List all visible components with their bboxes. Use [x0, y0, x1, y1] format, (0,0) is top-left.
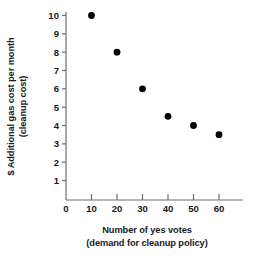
- data-point: [88, 12, 95, 19]
- y-tick-label: 3: [54, 138, 59, 149]
- data-point: [139, 85, 146, 92]
- axis-lines: [66, 12, 243, 200]
- x-axis-title-line1: Number of yes votes: [38, 224, 256, 237]
- data-point: [165, 113, 172, 120]
- data-point: [216, 131, 223, 138]
- y-tick-label: 9: [54, 28, 59, 39]
- x-tick-label: 40: [163, 203, 174, 214]
- y-tick-label: 4: [54, 120, 60, 131]
- data-point: [190, 122, 197, 129]
- x-tick-label: 30: [137, 203, 148, 214]
- y-tick-label: 10: [48, 10, 59, 21]
- x-axis-tick-labels: 0102030405060: [63, 203, 224, 214]
- x-axis-title: Number of yes votes (demand for cleanup …: [38, 224, 256, 249]
- x-axis-title-line2: (demand for cleanup policy): [38, 237, 256, 250]
- data-point: [114, 49, 121, 56]
- x-axis-ticks: [92, 194, 220, 200]
- y-tick-label: 7: [54, 65, 59, 76]
- y-tick-label: 2: [54, 157, 59, 168]
- y-tick-label: 8: [54, 47, 60, 58]
- y-axis-tick-labels: 12345678910: [48, 10, 59, 186]
- data-point-series: [88, 12, 222, 138]
- x-tick-label: 0: [63, 203, 68, 214]
- x-tick-label: 20: [112, 203, 123, 214]
- y-tick-label: 6: [54, 83, 59, 94]
- y-tick-label: 5: [54, 102, 60, 113]
- x-tick-label: 50: [188, 203, 199, 214]
- scatter-chart: $ Additional gas cost per month (cleanup…: [0, 0, 260, 265]
- x-tick-label: 60: [214, 203, 225, 214]
- y-tick-label: 1: [54, 175, 60, 186]
- x-tick-label: 10: [86, 203, 97, 214]
